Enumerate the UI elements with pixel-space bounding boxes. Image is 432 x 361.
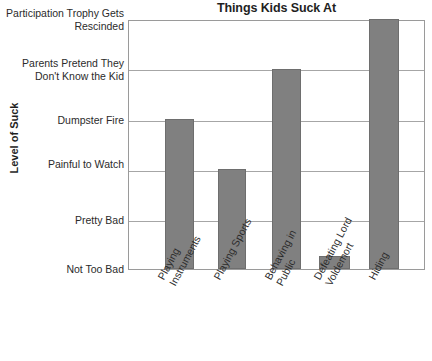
x-axis-tick-labels: Playing Instruments Playing Sports Behav…	[0, 0, 432, 361]
bar-chart: Things Kids Suck At Level of Suck Partic…	[0, 0, 432, 361]
